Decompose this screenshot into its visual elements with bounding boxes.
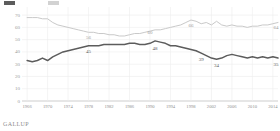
data-label: 48: [153, 46, 158, 51]
data-label: 66: [188, 23, 193, 28]
gallup-line-chart: 010203040506070 196619701974197819821986…: [0, 0, 280, 131]
data-label: 34: [214, 63, 219, 68]
data-label: 60: [148, 30, 153, 35]
data-label: 45: [86, 49, 91, 54]
data-label: 39: [199, 57, 204, 62]
data-label: 56: [86, 35, 91, 40]
data-label: 35: [274, 62, 279, 67]
gallup-logo: GALLUP: [3, 121, 29, 127]
data-point-labels: 566066644548393435: [0, 0, 280, 131]
data-label: 64: [274, 25, 279, 30]
